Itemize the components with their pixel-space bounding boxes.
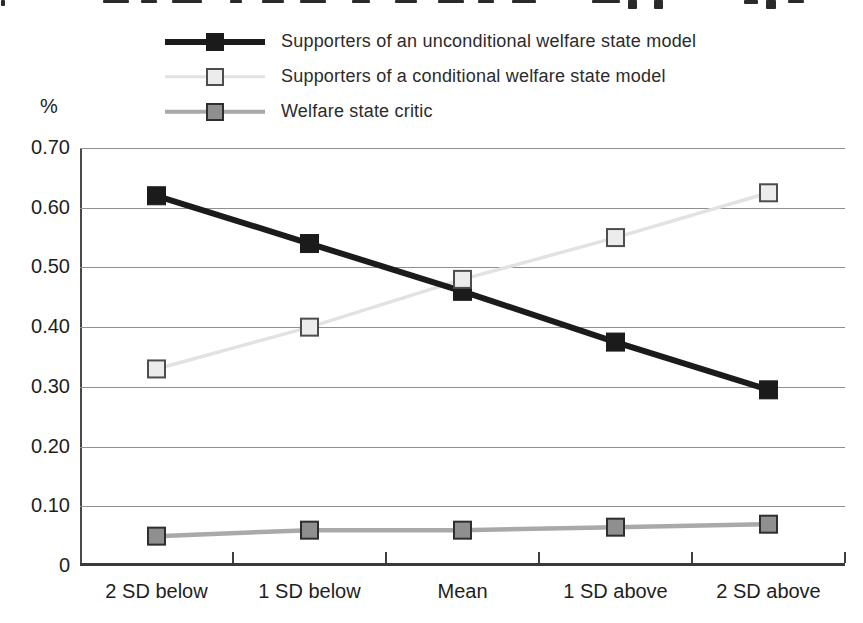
data-point-marker xyxy=(148,187,166,205)
clipped-text-fragment xyxy=(1,0,5,6)
clipped-text-fragment xyxy=(592,0,620,3)
y-axis-tick-label: 0.30 xyxy=(0,375,70,398)
square-marker-icon xyxy=(206,33,224,51)
chart-legend: Supporters of an unconditional welfare s… xyxy=(165,24,696,129)
legend-label: Supporters of a conditional welfare stat… xyxy=(281,66,666,87)
clipped-text-fragment xyxy=(172,0,202,3)
data-point-marker xyxy=(301,319,318,336)
data-point-marker xyxy=(301,522,318,539)
plot-series-svg xyxy=(80,148,845,566)
y-axis-tick-label: 0.20 xyxy=(0,435,70,458)
x-axis-tick-label: 2 SD above xyxy=(684,580,854,603)
plot-area xyxy=(80,148,845,566)
x-axis-tick-label: 1 SD above xyxy=(531,580,701,603)
clipped-text-fragment xyxy=(512,0,536,3)
legend-swatch-critic xyxy=(165,100,265,124)
clipped-text-fragment xyxy=(766,0,776,9)
legend-swatch-unconditional xyxy=(165,30,265,54)
clipped-text-fragment xyxy=(300,0,326,3)
data-point-marker xyxy=(148,360,165,377)
data-point-marker xyxy=(148,528,165,545)
x-axis-tick-label: Mean xyxy=(378,580,548,603)
y-axis-tick-label: 0 xyxy=(0,554,70,577)
y-axis-tick-label: 0.70 xyxy=(0,136,70,159)
y-axis-tick-label: 0.40 xyxy=(0,315,70,338)
square-marker-icon xyxy=(206,103,224,121)
x-axis-tick-label: 1 SD below xyxy=(225,580,395,603)
x-axis-tick-label: 2 SD below xyxy=(72,580,242,603)
clipped-text-fragment xyxy=(744,0,758,4)
clipped-text-fragment xyxy=(628,0,637,9)
data-point-marker xyxy=(760,516,777,533)
clipped-text-fragment xyxy=(262,0,284,3)
data-point-marker xyxy=(607,229,624,246)
data-point-marker xyxy=(607,333,625,351)
legend-label: Welfare state critic xyxy=(281,101,433,122)
y-axis-tick-label: 0.60 xyxy=(0,196,70,219)
legend-item-unconditional: Supporters of an unconditional welfare s… xyxy=(165,24,696,59)
square-marker-icon xyxy=(206,68,224,86)
clipped-text-fragment xyxy=(103,0,129,3)
clipped-text-fragment xyxy=(788,0,804,3)
y-axis-unit-label: % xyxy=(40,95,58,118)
legend-label: Supporters of an unconditional welfare s… xyxy=(281,31,696,52)
clipped-text-fragment xyxy=(141,0,157,3)
clipped-text-fragment xyxy=(654,0,663,9)
y-axis-tick-label: 0.50 xyxy=(0,255,70,278)
data-point-marker xyxy=(454,271,471,288)
clipped-text-fragment xyxy=(230,0,242,3)
data-point-marker xyxy=(760,381,778,399)
y-axis-tick-label: 0.10 xyxy=(0,494,70,517)
clipped-text-fragment xyxy=(395,0,417,3)
clipped-text-fragment xyxy=(478,0,494,3)
data-point-marker xyxy=(454,522,471,539)
data-point-marker xyxy=(301,235,319,253)
legend-swatch-conditional xyxy=(165,65,265,89)
data-point-marker xyxy=(607,519,624,536)
legend-item-critic: Welfare state critic xyxy=(165,94,696,129)
welfare-state-line-chart-figure: Supporters of an unconditional welfare s… xyxy=(0,0,863,623)
legend-item-conditional: Supporters of a conditional welfare stat… xyxy=(165,59,696,94)
clipped-text-fragment xyxy=(352,0,370,3)
data-point-marker xyxy=(760,184,777,201)
clipped-text-fragment xyxy=(438,0,464,3)
